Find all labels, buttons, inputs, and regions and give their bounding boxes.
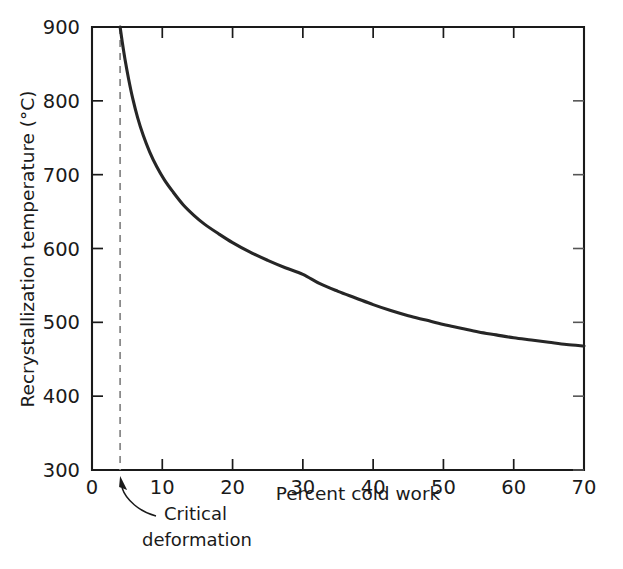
x-axis-title: Percent cold work [276,483,441,504]
axis-frame [92,27,584,470]
y-tick-label: 500 [43,311,80,334]
arrow-head-icon [119,476,127,490]
top-axis-ticks [162,27,513,38]
x-tick-label: 20 [220,476,245,499]
x-tick-label: 70 [572,476,597,499]
annotation-line-2: deformation [142,529,252,550]
right-axis-ticks [573,101,584,470]
plot-frame [92,27,584,470]
annotation-line-1: Critical [164,503,227,524]
recrystallization-curve [120,27,584,346]
y-tick-label: 300 [43,459,80,482]
y-tick-label: 800 [43,90,80,113]
recrystallization-temperature-chart: 010203040506070 900800700600500400300 Pe… [0,0,623,569]
left-axis-ticks [92,101,103,396]
x-tick-label: 60 [501,476,526,499]
chart-figure: 010203040506070 900800700600500400300 Pe… [0,0,623,569]
x-tick-label: 10 [150,476,175,499]
y-tick-label: 400 [43,385,80,408]
data-series-group [120,27,584,346]
y-tick-labels: 900800700600500400300 [43,16,80,482]
y-tick-label: 600 [43,238,80,261]
y-tick-label: 700 [43,164,80,187]
x-tick-label: 0 [86,476,98,499]
y-tick-label: 900 [43,16,80,39]
y-axis-title: Recrystallization temperature (°C) [17,91,38,408]
bottom-axis-ticks [162,459,513,470]
